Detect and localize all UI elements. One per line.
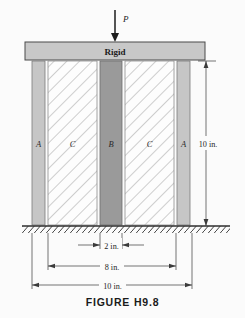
- member-label-b-center: B: [108, 139, 113, 149]
- dimension-label-8in: 8 in.: [105, 263, 120, 272]
- figure-caption: FIGURE H9.8: [0, 296, 245, 308]
- ground-hatching-icon: [22, 226, 230, 233]
- ground-support-group: [22, 226, 230, 233]
- figure-h9-8-diagram: P Rigid A C B C A 10 in.: [0, 0, 245, 318]
- member-label-c-left: C: [70, 139, 76, 149]
- dimension-label-height: 10 in.: [199, 140, 218, 149]
- member-label-c-right: C: [147, 139, 153, 149]
- load-label: P: [122, 14, 129, 24]
- dimension-label-2in: 2 in.: [104, 242, 119, 251]
- member-label-a-right: A: [180, 139, 187, 149]
- rigid-plate-label: Rigid: [104, 47, 125, 57]
- dimension-label-10in-width: 10 in.: [103, 282, 122, 291]
- rigid-plate-group: Rigid: [25, 42, 205, 60]
- member-label-a-left: A: [35, 139, 42, 149]
